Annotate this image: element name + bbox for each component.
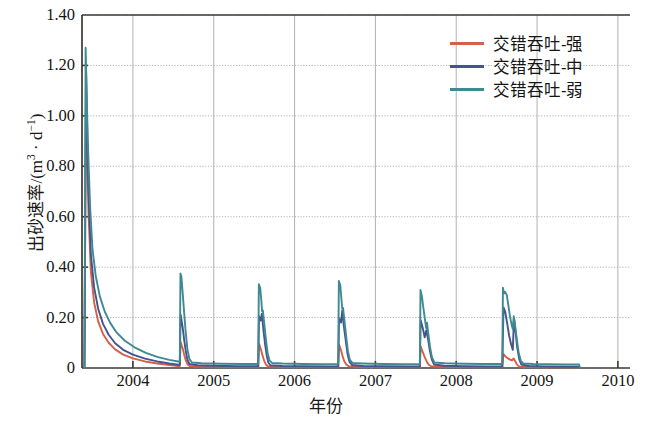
x-axis-title-text: 年份	[309, 397, 343, 416]
legend-item-label: 交错吞吐-弱	[493, 77, 584, 101]
x-tick-label: 2004	[98, 371, 168, 391]
legend-color-swatch	[450, 65, 484, 68]
x-tick-label: 2006	[260, 371, 330, 391]
legend-item[interactable]: 交错吞吐-强	[450, 32, 635, 54]
x-tick-label: 2010	[583, 371, 652, 391]
legend-item[interactable]: 交错吞吐-中	[450, 55, 635, 77]
legend-item-label: 交错吞吐-中	[493, 54, 584, 78]
x-tick-label: 2009	[502, 371, 572, 391]
legend-color-swatch	[450, 42, 484, 45]
x-tick-label: 2008	[421, 371, 491, 391]
sand-production-rate-chart: 00.200.400.600.801.001.201.40 2004200520…	[0, 0, 652, 421]
x-tick-label: 2007	[340, 371, 410, 391]
y-axis-title-text: 出砂速率/(m3 · d−1)	[27, 113, 46, 251]
x-axis-title: 年份	[0, 392, 652, 417]
x-tick-label: 2005	[179, 371, 249, 391]
legend-color-swatch	[450, 88, 484, 91]
chart-legend: 交错吞吐-强交错吞吐-中交错吞吐-弱	[450, 32, 635, 101]
y-axis-title: 出砂速率/(m3 · d−1)	[22, 53, 47, 313]
legend-item[interactable]: 交错吞吐-弱	[450, 78, 635, 100]
legend-item-label: 交错吞吐-强	[493, 31, 584, 55]
